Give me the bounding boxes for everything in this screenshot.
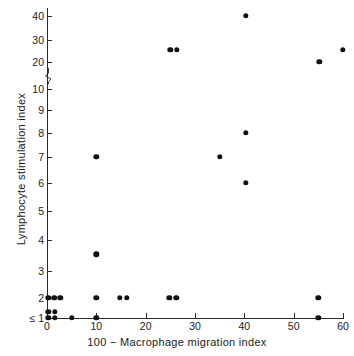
x-tick-label: 30 [180, 321, 210, 332]
data-point [316, 315, 321, 320]
data-point [46, 315, 51, 320]
plot-area [47, 8, 343, 318]
y-tick-label: 10 [32, 84, 44, 95]
y-tick-label: 6 [38, 178, 44, 189]
data-point [217, 154, 222, 159]
y-tick-label-wrap: 30 [0, 35, 44, 46]
y-tick-label: 7 [38, 152, 44, 163]
data-point [94, 252, 99, 257]
data-point [117, 295, 122, 300]
x-axis-line [47, 318, 344, 319]
y-tick-label: 3 [38, 266, 44, 277]
x-tick-label: 20 [131, 321, 161, 332]
y-tick-label-wrap: 2 [0, 293, 44, 304]
data-point [340, 47, 345, 52]
y-tick-label: 8 [38, 128, 44, 139]
scatter-plot-figure: 4030201098765432≤ 1 0102030405060 100 − … [0, 0, 354, 356]
data-point [167, 295, 172, 300]
data-point [243, 13, 248, 18]
y-tick-label: 4 [38, 235, 44, 246]
data-point [316, 295, 321, 300]
y-tick-label-wrap: 40 [0, 11, 44, 22]
data-point [69, 315, 74, 320]
data-point [46, 309, 51, 314]
y-tick-label: 5 [38, 206, 44, 217]
data-point [94, 295, 99, 300]
data-point [52, 309, 57, 314]
data-point [52, 295, 57, 300]
data-point [243, 180, 248, 185]
data-point [46, 295, 51, 300]
y-tick-label: 20 [32, 57, 44, 68]
y-tick-label: 2 [38, 293, 44, 304]
x-tick-mark [343, 313, 344, 318]
y-tick-label: 30 [32, 35, 44, 46]
x-tick-label: 60 [328, 321, 354, 332]
data-point [58, 295, 63, 300]
y-axis-title: Lymphocyte stimulation index [15, 49, 27, 289]
x-tick-label: 10 [81, 321, 111, 332]
x-tick-label: 40 [229, 321, 259, 332]
data-point [94, 154, 99, 159]
data-point [174, 295, 179, 300]
data-point [174, 47, 179, 52]
data-point [243, 130, 248, 135]
data-point [168, 47, 173, 52]
x-axis-title: 100 − Macrophage migration index [0, 336, 354, 348]
data-point [52, 315, 57, 320]
data-point [317, 59, 322, 64]
y-tick-label: 40 [32, 11, 44, 22]
y-tick-label: 9 [38, 105, 44, 116]
x-tick-label: 50 [279, 321, 309, 332]
x-tick-label: 0 [32, 321, 62, 332]
data-point [124, 295, 129, 300]
